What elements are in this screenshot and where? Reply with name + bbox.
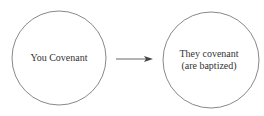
covenant-diagram: You Covenant They covenant (are baptized… — [0, 0, 264, 116]
node-label: You Covenant — [30, 52, 87, 63]
node-you-covenant: You Covenant — [12, 11, 106, 105]
node-they-covenant: They covenant (are baptized) — [163, 12, 259, 108]
node-label-line-2: (are baptized) — [181, 60, 236, 72]
node-label-line-1: They covenant — [179, 48, 238, 59]
edge-arrow — [116, 56, 153, 62]
